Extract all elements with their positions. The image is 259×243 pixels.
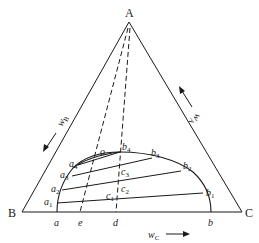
point-a3-label: a3: [60, 169, 69, 182]
point-c2-label: c2: [121, 183, 129, 196]
base-label-d: d: [113, 217, 119, 228]
arrow-right-icon: [166, 231, 190, 237]
svg-text:wC: wC: [148, 229, 160, 242]
arrow-down-left-icon: [43, 133, 56, 152]
axis-label-wc: wC: [148, 229, 160, 242]
base-label-a: a: [54, 217, 59, 228]
axis-label-wa: wA: [187, 111, 204, 128]
point-a2-label: a2: [51, 183, 60, 196]
tie-line-1: [57, 193, 203, 203]
ternary-diagram: A B C a e d b a1 a2 a3 a4 b1 b2 b3 b4 c1…: [0, 0, 259, 243]
point-b2-label: b2: [183, 160, 192, 173]
point-b3-label: b3: [151, 147, 160, 160]
edge-ab: [22, 22, 129, 212]
axis-label-wb: wB: [54, 112, 71, 129]
svg-text:wA: wA: [187, 111, 204, 128]
point-b1-label: b1: [206, 187, 215, 200]
point-a1-label: a1: [44, 196, 53, 209]
tie-lines: [57, 152, 203, 203]
edge-ac: [129, 22, 242, 212]
base-label-b: b: [208, 217, 213, 228]
vertex-b-label: B: [8, 206, 16, 220]
tie-line-3: [72, 158, 152, 176]
vertex-c-label: C: [245, 206, 253, 220]
point-c3-label: c3: [121, 166, 129, 179]
vertex-a-label: A: [125, 6, 134, 20]
svg-text:wB: wB: [54, 112, 71, 129]
base-label-e: e: [78, 217, 83, 228]
point-a4-label: a4: [69, 158, 78, 171]
point-o-label: o: [100, 146, 105, 157]
arrow-up-left-icon: [179, 86, 192, 107]
point-c1-label: c1: [106, 190, 114, 203]
